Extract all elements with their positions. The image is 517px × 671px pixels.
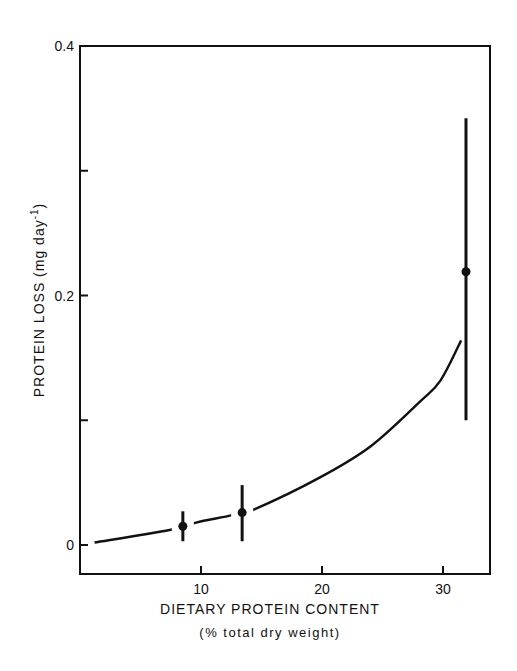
y-tick-label: 0.4 <box>55 38 75 54</box>
x-tick-label: 10 <box>193 581 209 597</box>
y-tick-label: 0 <box>66 537 74 553</box>
y-axis-title-superscript: -1 <box>29 208 40 219</box>
y-axis-title: PROTEIN LOSS (mg day-1) <box>29 203 47 398</box>
x-axis-ticks: 102030 <box>193 566 451 597</box>
y-tick-label: 0.2 <box>55 288 75 304</box>
fitted-curve <box>95 340 462 542</box>
x-tick-label: 30 <box>435 581 451 597</box>
x-axis-title: DIETARY PROTEIN CONTENT <box>160 601 380 617</box>
data-points <box>172 118 477 541</box>
data-point <box>238 508 247 517</box>
curve-line <box>95 340 462 542</box>
y-axis-ticks: 00.20.4 <box>55 38 88 553</box>
data-point <box>461 267 470 276</box>
y-axis-title-main: PROTEIN LOSS (mg day <box>31 219 47 397</box>
x-axis-subtitle: (% total dry weight) <box>199 625 340 640</box>
x-tick-label: 20 <box>314 581 330 597</box>
data-point <box>178 522 187 531</box>
y-axis-title-close: ) <box>31 203 47 209</box>
chart: 00.20.4 102030 DIETARY PROTEIN CONTENT (… <box>0 0 517 671</box>
